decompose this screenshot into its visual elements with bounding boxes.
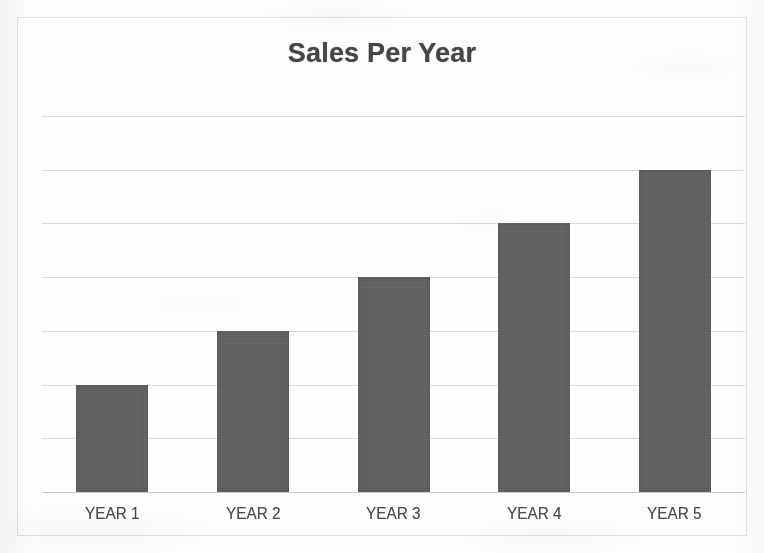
bar <box>76 385 148 492</box>
x-axis-label: YEAR 2 <box>190 504 317 524</box>
bars-group <box>42 116 745 492</box>
x-axis-label: YEAR 3 <box>330 504 457 524</box>
bar <box>217 331 289 492</box>
axis-baseline <box>42 492 745 493</box>
bar <box>358 277 430 492</box>
scanned-page: Sales Per Year YEAR 1YEAR 2YEAR 3YEAR 4Y… <box>0 0 764 553</box>
chart-title: Sales Per Year <box>0 38 764 69</box>
x-axis-labels: YEAR 1YEAR 2YEAR 3YEAR 4YEAR 5 <box>42 504 745 534</box>
x-axis-label: YEAR 5 <box>611 504 738 524</box>
x-axis-label: YEAR 1 <box>49 504 176 524</box>
bar <box>639 170 711 492</box>
bar <box>498 223 570 492</box>
x-axis-label: YEAR 4 <box>471 504 598 524</box>
plot-area <box>42 116 745 492</box>
